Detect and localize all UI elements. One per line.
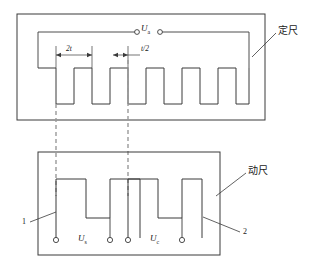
stator-name-label: 定尺 <box>278 26 298 36</box>
dim-pitch-arrowhead-left <box>56 53 61 57</box>
stator-bus-conductor <box>38 32 137 68</box>
stator-terminal-left <box>135 30 140 35</box>
slider-terminal-c-left <box>125 237 130 242</box>
dim-pitch-arrowhead-right <box>87 53 92 57</box>
dimension-pitch-label: 2t <box>66 45 72 53</box>
stator-comb-electrode <box>38 68 249 104</box>
slider-name-label: 动尺 <box>248 166 268 176</box>
dimension-gap-label: t/2 <box>141 45 149 53</box>
slider-electrode-c <box>128 179 202 238</box>
stator-bus-conductor-right <box>160 32 249 68</box>
callout-1-label: 1 <box>22 218 26 226</box>
stator-terminal-right <box>158 30 163 35</box>
slider-terminal-s-left <box>53 237 58 242</box>
slider-terminal-s-right <box>107 237 112 242</box>
callout-1-leader <box>30 212 56 222</box>
callout-2-leader <box>203 217 240 232</box>
slider-output-c-label: Uc <box>150 234 159 245</box>
dim-gap-arrowhead-right <box>123 53 128 57</box>
stator-name-leader <box>252 33 276 57</box>
stator-excitation-label: Ua <box>141 24 150 35</box>
diagram-canvas: Ua 2t t/2 定尺 动尺 Us Uc 1 2 <box>0 0 317 277</box>
dim-gap-arrowhead-left <box>113 53 118 57</box>
slider-output-s-label: Us <box>78 234 87 245</box>
callout-2-label: 2 <box>243 228 247 236</box>
slider-terminal-c-right <box>179 237 184 242</box>
